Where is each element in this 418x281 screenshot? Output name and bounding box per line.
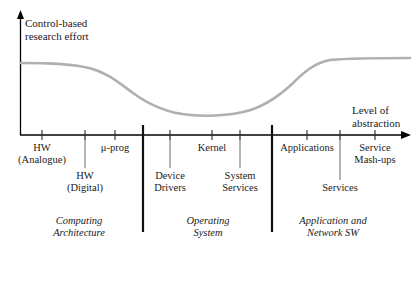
tick-label-line2: (Analogue) (18, 154, 66, 166)
y-axis-title: Control-based research effort (25, 17, 89, 43)
y-axis (17, 10, 24, 135)
figure-control-based-research-effort-vs-level-of-abstraction: Control-based research effort Level of a… (0, 0, 418, 281)
y-axis-title-line2: research effort (25, 30, 89, 43)
y-axis-arrowhead (17, 10, 24, 19)
x-tick-label-hw-digital: HW (Digital) (67, 170, 103, 195)
x-tick-label-device-drivers: Device Drivers (154, 170, 186, 195)
tick-label-line1: Kernel (198, 142, 227, 154)
tick-label-line2: Mash-ups (354, 154, 395, 166)
tick-label-line2: Drivers (154, 182, 186, 194)
x-tick-label-services: Services (322, 182, 358, 194)
tick-label-line1: HW (18, 142, 66, 154)
x-tick-label-system-services: System Services (222, 170, 258, 195)
zone-label-computing-architecture: Computing Architecture (53, 215, 105, 240)
zone-label-line2: System (186, 227, 229, 239)
tick-label-line2: Services (222, 182, 258, 194)
tick-label-line1: System (222, 170, 258, 182)
zone-label-operating-system: Operating System (186, 215, 229, 240)
x-tick-label-micro-prog: μ-prog (101, 142, 129, 154)
zone-label-line1: Operating (186, 215, 229, 227)
x-tick-label-kernel: Kernel (198, 142, 227, 154)
x-axis-title-line2: abstraction (352, 117, 400, 130)
tick-label-line1: Services (322, 182, 358, 194)
tick-label-line1: μ-prog (101, 142, 129, 154)
tick-label-line1: Device (154, 170, 186, 182)
x-tick-label-hw-analogue: HW (Analogue) (18, 142, 66, 167)
zone-label-line2: Network SW (299, 227, 366, 239)
tick-label-line1: Applications (280, 142, 334, 154)
x-axis-ticks (42, 130, 375, 140)
zone-label-line1: Computing (53, 215, 105, 227)
x-tick-label-service-mash-ups: Service Mash-ups (354, 142, 395, 167)
zone-label-line2: Architecture (53, 227, 105, 239)
zone-label-line1: Application and (299, 215, 366, 227)
x-axis-title: Level of abstraction (352, 104, 400, 130)
x-axis-arrowhead (401, 131, 411, 139)
tick-label-line2: (Digital) (67, 182, 103, 194)
tick-label-line1: Service (354, 142, 395, 154)
y-axis-title-line1: Control-based (25, 17, 89, 30)
x-axis (20, 131, 411, 139)
tick-label-line1: HW (67, 170, 103, 182)
zone-label-application-and-network-sw: Application and Network SW (299, 215, 366, 240)
x-axis-title-line1: Level of (352, 104, 400, 117)
x-tick-label-applications: Applications (280, 142, 334, 154)
